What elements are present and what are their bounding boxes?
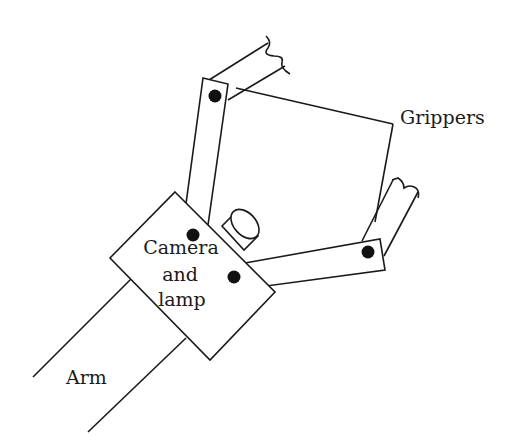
arm-label: Arm (65, 366, 107, 388)
grippers-label: Grippers (400, 106, 485, 128)
camera-label-line2: and (162, 263, 198, 285)
camera-label-line1: Camera (143, 236, 219, 258)
lamp-cylinder (222, 204, 265, 250)
pivot-right (362, 246, 375, 259)
pivot-top (209, 90, 222, 103)
camera-label-line3: lamp (158, 288, 206, 310)
lower-gripper-link (245, 239, 385, 287)
grippers-pointer-lines (236, 88, 393, 222)
robotic-arm-diagram: Grippers Camera and lamp Arm (0, 0, 508, 445)
pivot-housing-right (228, 271, 241, 284)
